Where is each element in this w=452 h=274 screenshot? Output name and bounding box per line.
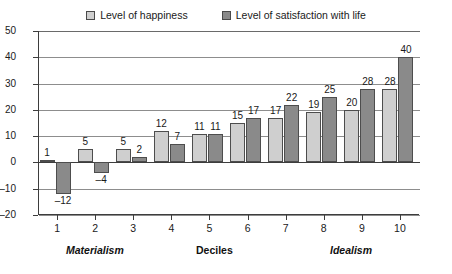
- legend-item-satisfaction: Level of satisfaction with life: [222, 10, 366, 21]
- x-axis-tick-mark: [400, 215, 401, 220]
- chart-legend: Level of happiness Level of satisfaction…: [0, 6, 452, 24]
- bar-happiness[interactable]: [230, 123, 245, 162]
- y-axis-tick-label: 10: [0, 131, 16, 141]
- bar-group: 2028: [343, 31, 381, 215]
- x-axis-tick-mark: [324, 215, 325, 220]
- x-axis-tick-mark: [133, 215, 134, 220]
- bar-value-label: 25: [316, 85, 343, 95]
- bar-group: 1925: [305, 31, 343, 215]
- x-axis-tick-mark: [171, 215, 172, 220]
- bar-group: 1517: [229, 31, 267, 215]
- bar-value-label: 40: [392, 45, 419, 55]
- x-axis-tick-mark: [95, 215, 96, 220]
- bar-group: 1111: [190, 31, 228, 215]
- bar-group: 1722: [267, 31, 305, 215]
- axis-annotation-idealism: Idealism: [330, 244, 372, 256]
- legend-label-satisfaction: Level of satisfaction with life: [236, 10, 366, 21]
- x-axis-tick-label: 1: [42, 223, 72, 234]
- bar-groups: 1–125–452127111115171722192520282840: [38, 31, 419, 215]
- x-axis-tick-label: 4: [156, 223, 186, 234]
- bar-happiness[interactable]: [192, 134, 207, 163]
- y-axis-tick-label: 40: [0, 52, 16, 62]
- bar-group: 5–4: [76, 31, 114, 215]
- bar-value-label: 5: [72, 137, 99, 147]
- x-axis-tick-mark: [362, 215, 363, 220]
- bar-satisfaction[interactable]: [246, 118, 261, 163]
- bar-value-label: 2: [126, 145, 153, 155]
- y-axis-tick-label: 30: [0, 79, 16, 89]
- bar-satisfaction[interactable]: [132, 157, 147, 162]
- bar-happiness[interactable]: [268, 118, 283, 163]
- bar-group: 52: [114, 31, 152, 215]
- x-axis-tick-mark: [248, 215, 249, 220]
- bar-value-label: –12: [50, 196, 77, 206]
- x-axis-tick-label: 8: [309, 223, 339, 234]
- bar-value-label: 11: [202, 122, 229, 132]
- legend-label-happiness: Level of happiness: [100, 10, 188, 21]
- bar-happiness[interactable]: [78, 149, 93, 162]
- bar-satisfaction[interactable]: [94, 162, 109, 173]
- y-axis-tick-label: 20: [0, 105, 16, 115]
- bar-satisfaction[interactable]: [170, 144, 185, 162]
- bar-value-label: 1: [34, 148, 61, 158]
- bar-value-label: –4: [88, 175, 115, 185]
- x-axis-tick-label: 3: [118, 223, 148, 234]
- x-axis-tick-mark: [209, 215, 210, 220]
- bar-satisfaction[interactable]: [398, 57, 413, 162]
- axis-annotation-materialism: Materialism: [66, 244, 124, 256]
- bar-happiness[interactable]: [344, 110, 359, 163]
- axis-annotation-deciles: Deciles: [196, 244, 233, 256]
- x-axis-tick-label: 7: [271, 223, 301, 234]
- x-axis-tick-mark: [57, 215, 58, 220]
- bar-value-label: 7: [164, 132, 191, 142]
- bar-value-label: 12: [148, 119, 175, 129]
- bar-satisfaction[interactable]: [56, 162, 71, 194]
- bar-satisfaction[interactable]: [284, 105, 299, 163]
- y-axis-tick-mark: [33, 215, 38, 216]
- bar-satisfaction[interactable]: [208, 134, 223, 163]
- y-axis-tick-label: –10: [0, 184, 16, 194]
- bar-happiness[interactable]: [40, 160, 55, 163]
- legend-item-happiness: Level of happiness: [86, 10, 188, 21]
- bar-group: 127: [152, 31, 190, 215]
- dark-gray-swatch-icon: [222, 11, 231, 20]
- light-gray-swatch-icon: [86, 11, 95, 20]
- bar-group: 1–12: [38, 31, 76, 215]
- x-axis-tick-label: 10: [385, 223, 415, 234]
- x-axis-tick-label: 5: [194, 223, 224, 234]
- gridline: [39, 215, 420, 216]
- x-axis-tick-label: 6: [233, 223, 263, 234]
- x-axis-tick-label: 9: [347, 223, 377, 234]
- bar-satisfaction[interactable]: [322, 97, 337, 163]
- bar-chart: Level of happiness Level of satisfaction…: [0, 0, 452, 274]
- bar-satisfaction[interactable]: [360, 89, 375, 163]
- y-axis-tick-label: 50: [0, 26, 16, 36]
- y-axis-tick-label: –20: [0, 210, 16, 220]
- x-axis-tick-mark: [286, 215, 287, 220]
- bar-happiness[interactable]: [382, 89, 397, 163]
- bar-happiness[interactable]: [306, 112, 321, 162]
- y-axis-tick-label: 0: [0, 157, 16, 167]
- x-axis-tick-label: 2: [80, 223, 110, 234]
- bar-group: 2840: [381, 31, 419, 215]
